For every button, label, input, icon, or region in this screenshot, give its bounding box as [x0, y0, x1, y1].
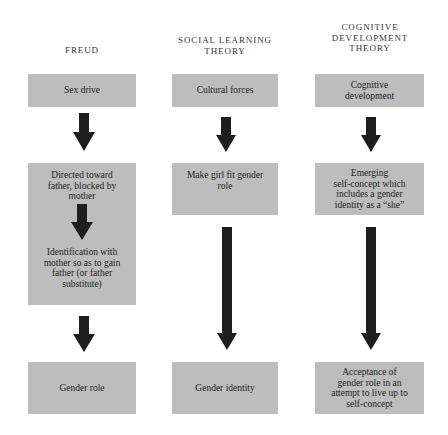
social-learning-theory-heading: SOCIAL LEARNING THEORY: [160, 35, 290, 56]
box-label: Make girl fit gender role: [187, 170, 263, 191]
box-label: Gender identity: [195, 383, 254, 394]
box-label: Cultural forces: [197, 85, 254, 96]
social-box-make-girl-fit: Make girl fit gender role: [172, 163, 278, 215]
arrow-down-icon: [73, 316, 95, 352]
long-arrow-down-icon: [361, 227, 381, 350]
arrow-down-icon: [216, 117, 236, 152]
freud-box-gender-role: Gender role: [28, 362, 136, 414]
freud-box-combined: Directed toward father, blocked by mothe…: [28, 163, 136, 305]
box-label-identification-with-mother: Identification with mother so as to gain…: [28, 247, 136, 289]
freud-heading: FREUD: [28, 45, 136, 56]
box-label: Sex drive: [64, 85, 100, 96]
box-label: Gender role: [59, 383, 104, 394]
box-label: Cognitive development: [345, 80, 394, 101]
arrow-down-icon: [73, 113, 95, 151]
freud-box-sex-drive: Sex drive: [28, 74, 136, 107]
box-label: Emerging self-concept which includes a g…: [333, 168, 405, 210]
box-label: Acceptance of gender role in an attempt …: [331, 367, 408, 409]
cognitive-box-cognitive-development: Cognitive development: [315, 74, 424, 107]
cognitive-box-emerging-self-concept: Emerging self-concept which includes a g…: [315, 163, 424, 215]
cognitive-development-theory-heading: COGNITIVE DEVELOPMENT THEORY: [310, 22, 430, 54]
arrow-down-icon: [361, 117, 381, 152]
arrow-down-icon: [71, 204, 93, 240]
box-label-directed-toward-father: Directed toward father, blocked by mothe…: [28, 170, 136, 202]
long-arrow-down-icon: [217, 227, 237, 350]
social-box-cultural-forces: Cultural forces: [172, 74, 278, 107]
cognitive-box-acceptance-of-gender-role: Acceptance of gender role in an attempt …: [315, 362, 424, 414]
social-box-gender-identity: Gender identity: [172, 362, 278, 414]
